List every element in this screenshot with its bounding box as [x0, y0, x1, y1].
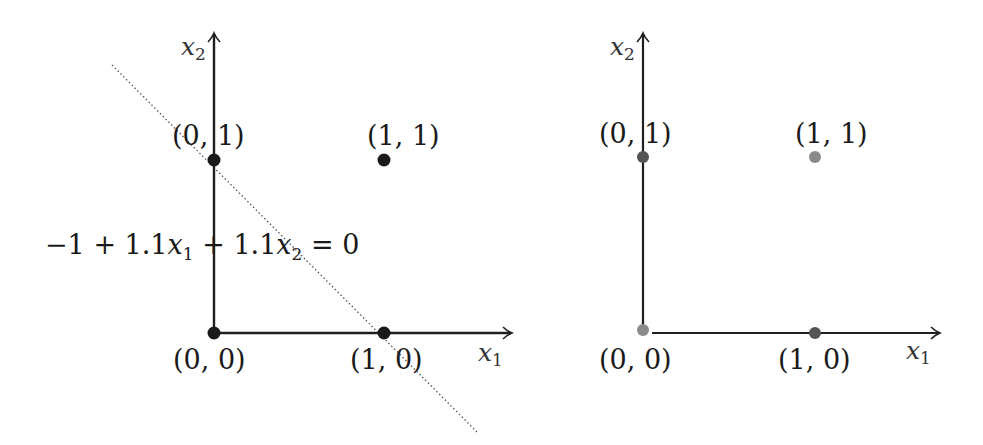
eq-part: −1 + 1.1: [45, 229, 168, 260]
right-x1-axis-label: x1: [906, 338, 931, 367]
right-point-1-0: [809, 327, 821, 339]
right-panel: [637, 34, 939, 339]
left-point-0-0: [208, 327, 221, 340]
left-point-1-1: [378, 154, 391, 167]
right-point-0-1: [637, 151, 649, 163]
eq-sub: 1: [183, 244, 194, 264]
eq-sub: 2: [292, 244, 303, 264]
left-point-label-0-0: (0, 0): [173, 346, 246, 373]
axis-label-sub: 1: [920, 348, 931, 368]
right-x2-axis-label: x2: [610, 34, 635, 63]
eq-part: = 0: [302, 229, 359, 260]
right-point-1-1: [809, 151, 821, 163]
right-point-label-1-0: (1, 0): [778, 346, 851, 373]
left-point-label-1-0: (1, 0): [350, 346, 423, 373]
right-point-label-0-0: (0, 0): [599, 346, 672, 373]
axis-label-var: x: [610, 32, 624, 61]
decision-boundary-equation: −1 + 1.1x1 + 1.1x2 = 0: [45, 231, 359, 263]
axis-label-var: x: [906, 336, 920, 365]
axis-label-sub: 2: [195, 44, 206, 64]
left-point-1-0: [378, 327, 391, 340]
left-x2-axis-label: x2: [181, 34, 206, 63]
right-point-label-0-1: (0, 1): [599, 120, 672, 147]
left-x1-axis-label: x1: [478, 340, 503, 369]
eq-var: x: [168, 229, 183, 260]
diagram-canvas: [0, 0, 983, 445]
right-point-label-1-1: (1, 1): [795, 120, 868, 147]
axis-label-var: x: [181, 32, 195, 61]
right-point-0-0: [637, 324, 649, 336]
left-point-label-1-1: (1, 1): [367, 122, 440, 149]
eq-part: + 1.1: [194, 229, 277, 260]
axis-label-sub: 2: [624, 44, 635, 64]
left-point-label-0-1: (0, 1): [172, 122, 245, 149]
left-point-0-1: [208, 154, 221, 167]
eq-var: x: [276, 229, 291, 260]
axis-label-var: x: [478, 338, 492, 367]
axis-label-sub: 1: [492, 350, 503, 370]
